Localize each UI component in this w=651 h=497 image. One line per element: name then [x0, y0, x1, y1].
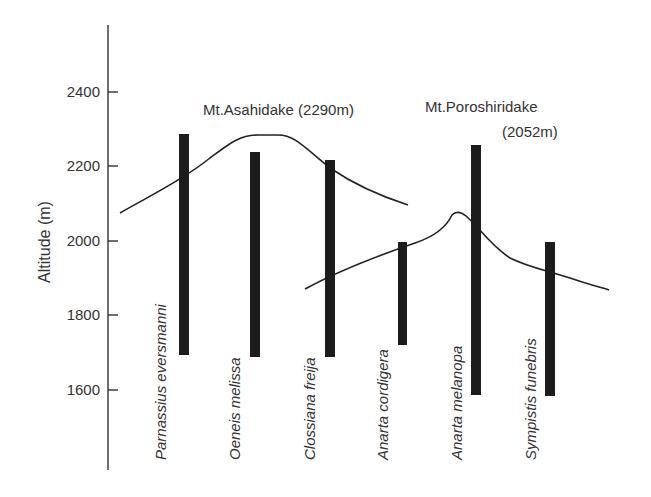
bar-oeneis-melissa — [250, 152, 260, 357]
poroshiridake-altitude: (2052m) — [502, 123, 558, 140]
species-label: Oeneis melissa — [226, 357, 243, 460]
altitude-chart: 2400 2200 2000 1800 1600 Altitude (m) Mt… — [0, 0, 651, 497]
asahidake-profile — [120, 135, 408, 213]
tick-label-2000: 2000 — [67, 232, 100, 249]
poroshiridake-profile — [305, 212, 609, 290]
altitude-bars — [179, 134, 555, 396]
bar-anarta-cordigera — [398, 242, 407, 345]
species-label: Sympistis funebris — [522, 338, 539, 460]
species-label: Clossiana freija — [301, 357, 318, 460]
y-ticks: 2400 2200 2000 1800 1600 — [67, 83, 118, 398]
bar-clossiana-freija — [325, 160, 335, 357]
poroshiridake-label: Mt.Poroshiridake — [425, 98, 538, 115]
tick-label-2400: 2400 — [67, 83, 100, 100]
species-label: Parnassius eversmanni — [152, 303, 169, 460]
y-axis-title: Altitude (m) — [36, 201, 53, 283]
bar-sympistis-funebris — [545, 242, 555, 396]
tick-label-2200: 2200 — [67, 157, 100, 174]
tick-label-1600: 1600 — [67, 381, 100, 398]
tick-label-1800: 1800 — [67, 306, 100, 323]
bar-parnassius-eversmanni — [179, 134, 189, 355]
species-label: Anarta melanopa — [448, 346, 465, 461]
species-label: Anarta cordigera — [374, 349, 391, 461]
asahidake-label: Mt.Asahidake (2290m) — [203, 101, 354, 118]
bar-anarta-melanopa — [471, 145, 481, 395]
